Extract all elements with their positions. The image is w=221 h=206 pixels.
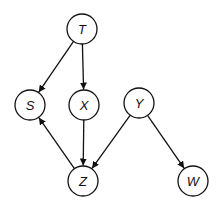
node-X: X <box>69 90 99 120</box>
node-Y: Y <box>124 88 154 118</box>
node-T: T <box>67 14 97 44</box>
edge-Y-to-W <box>148 115 185 168</box>
nodes-group: T S X Y Z W <box>15 14 208 196</box>
node-label: X <box>79 98 90 113</box>
node-Z: Z <box>68 166 98 196</box>
causal-graph: T S X Y Z W <box>0 0 221 206</box>
edge-T-to-X <box>82 44 83 90</box>
node-S: S <box>15 90 45 120</box>
edge-X-to-Z <box>83 120 84 166</box>
node-W: W <box>178 166 208 196</box>
node-label: Y <box>135 96 145 111</box>
edge-Z-to-S <box>39 118 75 169</box>
node-label: Z <box>78 174 88 189</box>
node-label: S <box>26 98 35 113</box>
edge-Y-to-Z <box>92 115 130 168</box>
node-label: W <box>187 174 201 189</box>
node-label: T <box>78 22 87 37</box>
edge-T-to-S <box>39 41 74 92</box>
edges-group <box>39 41 184 168</box>
